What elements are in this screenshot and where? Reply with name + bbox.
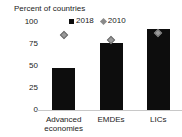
y-tick-label-0: 0 — [0, 106, 38, 114]
plot-area — [40, 22, 180, 110]
x-tick-label-lics: LICs — [123, 115, 182, 124]
bar-emdes — [100, 43, 123, 110]
bar-lics — [147, 29, 170, 110]
y-tick-label-75: 75 — [0, 40, 38, 48]
y-tick-label-50: 50 — [0, 62, 38, 70]
chart-container: Percent of countries 2018 2010 100 75 50… — [0, 0, 182, 137]
marker-2010-advanced-economies — [59, 31, 67, 39]
y-tick-label-25: 25 — [0, 84, 38, 92]
bar-advanced-economies — [52, 68, 75, 110]
x-axis-labels: Advanced economiesEMDEsLICs — [40, 112, 182, 137]
x-axis-line — [36, 110, 182, 111]
y-tick-label-100: 100 — [0, 18, 38, 26]
